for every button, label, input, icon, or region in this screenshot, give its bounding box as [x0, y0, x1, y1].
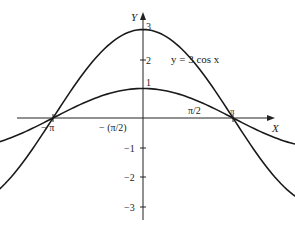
y-label-2: 2 [146, 55, 151, 66]
x-axis-arrow-icon [267, 115, 275, 121]
y-label-neg2: −2 [124, 172, 135, 183]
y-label-3: 3 [146, 21, 151, 32]
y-label-neg3: −3 [124, 202, 135, 213]
y-axis-arrow-icon [140, 12, 146, 20]
x-label-pi: π [230, 106, 235, 116]
y-axis-label: Y [131, 11, 139, 23]
x-label-neg-pi: − π [41, 122, 54, 133]
y-label-neg1: −1 [124, 143, 135, 154]
y-label-1: 1 [146, 77, 151, 88]
y-axis [140, 12, 146, 220]
x-label-half-pi: π/2 [188, 105, 201, 116]
x-label-neg-half-pi: − (π/2) [99, 122, 127, 134]
cosine-chart: Y X 3 2 1 −1 −2 −3 − π − (π/2) π/2 π y =… [0, 0, 295, 234]
curve-annotation: y = 3 cos x [171, 53, 220, 65]
x-axis-label: X [271, 122, 280, 134]
